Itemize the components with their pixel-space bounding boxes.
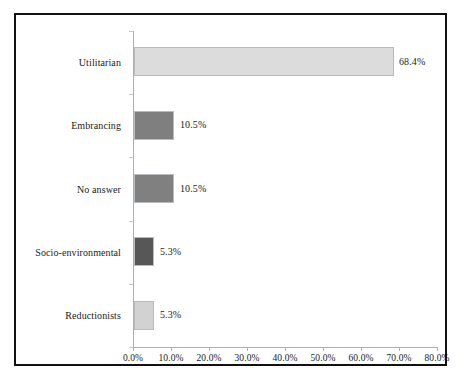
x-axis-tick: [247, 347, 248, 351]
category-label-embrancing: Embrancing: [71, 120, 121, 131]
y-axis-tick: [129, 31, 133, 32]
x-axis-tick: [285, 347, 286, 351]
x-axis-tick: [361, 347, 362, 351]
x-axis-tick-label: 60.0%: [348, 353, 373, 363]
bar-value-socio-environmental: 5.3%: [160, 246, 181, 257]
category-label-reductionists: Reductionists: [65, 310, 121, 321]
x-axis-tick: [171, 347, 172, 351]
x-axis-tick: [323, 347, 324, 351]
x-axis-tick-label: 30.0%: [234, 353, 259, 363]
y-axis-tick: [129, 221, 133, 222]
y-axis-tick: [129, 157, 133, 158]
x-axis-tick-label: 80.0%: [424, 353, 449, 363]
bar-value-embrancing: 10.5%: [180, 119, 206, 130]
plot-area: 0.0% 10.0% 20.0% 30.0% 40.0% 50.0% 60.0%…: [16, 15, 449, 368]
x-axis-tick-label: 10.0%: [158, 353, 183, 363]
y-axis-tick: [129, 284, 133, 285]
x-axis-tick: [437, 347, 438, 351]
bar-reductionists: [134, 301, 154, 330]
bar-socio-environmental: [134, 237, 154, 266]
x-axis-tick: [399, 347, 400, 351]
bar-value-utilitarian: 68.4%: [399, 56, 425, 67]
bar-embrancing: [134, 111, 174, 140]
x-axis-tick-label: 70.0%: [386, 353, 411, 363]
x-axis-tick-label: 20.0%: [196, 353, 221, 363]
x-axis-tick: [209, 347, 210, 351]
category-label-no-answer: No answer: [77, 184, 121, 195]
y-axis-tick: [129, 94, 133, 95]
bar-utilitarian: [134, 47, 394, 76]
category-label-utilitarian: Utilitarian: [79, 57, 121, 68]
chart-frame: 0.0% 10.0% 20.0% 30.0% 40.0% 50.0% 60.0%…: [14, 13, 447, 366]
caption-sliver: [100, 375, 365, 383]
x-axis-tick-label: 0.0%: [123, 353, 143, 363]
x-axis-tick-label: 50.0%: [310, 353, 335, 363]
x-axis-tick: [133, 347, 134, 351]
bar-value-no-answer: 10.5%: [180, 183, 206, 194]
category-label-socio-environmental: Socio-environmental: [35, 247, 121, 258]
figure-container: 0.0% 10.0% 20.0% 30.0% 40.0% 50.0% 60.0%…: [0, 0, 461, 384]
bar-value-reductionists: 5.3%: [160, 309, 181, 320]
x-axis-tick-label: 40.0%: [272, 353, 297, 363]
bar-no-answer: [134, 174, 174, 203]
